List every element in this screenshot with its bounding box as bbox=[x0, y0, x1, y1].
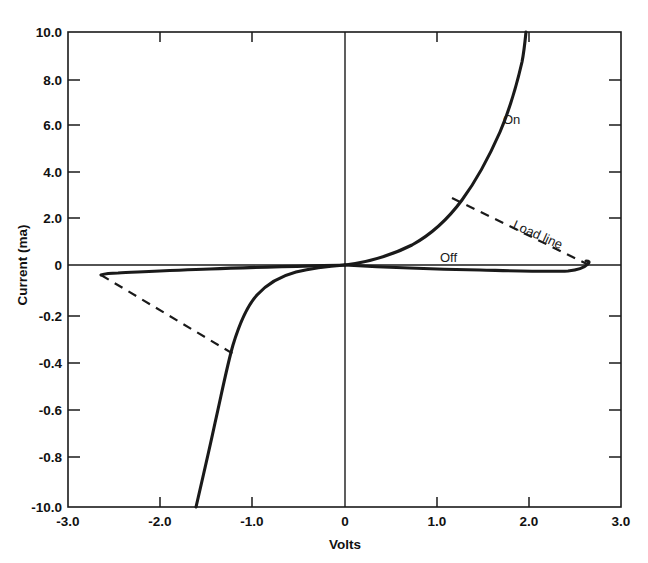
curve-on bbox=[345, 32, 526, 265]
y-tick-label: -0.8 bbox=[39, 450, 63, 465]
x-axis-title: Volts bbox=[329, 537, 361, 552]
y-tick-label: 8.0 bbox=[43, 73, 62, 88]
y-tick-label: -10.0 bbox=[31, 500, 62, 515]
load-line-reverse bbox=[101, 275, 235, 355]
annotation-load-line: Load line bbox=[511, 217, 565, 252]
y-tick-label: -0.2 bbox=[39, 309, 62, 324]
y-tick-label: 10.0 bbox=[36, 25, 62, 40]
x-tick-label: -1.0 bbox=[240, 514, 263, 529]
x-tick-label: 2.0 bbox=[520, 514, 539, 529]
y-tick-label: -0.4 bbox=[39, 356, 63, 371]
x-tick-label: 3.0 bbox=[612, 514, 631, 529]
y-tick-labels: 10.0 8.0 6.0 4.0 2.0 0 -0.2 -0.4 -0.6 -0… bbox=[31, 25, 62, 515]
annotation-off: Off bbox=[440, 250, 457, 265]
y-tick-label: 6.0 bbox=[43, 118, 62, 133]
x-tick-label: 1.0 bbox=[428, 514, 447, 529]
curve-off bbox=[345, 261, 589, 271]
zero-axes bbox=[68, 32, 621, 507]
x-tick-label: -3.0 bbox=[56, 514, 79, 529]
y-axis-title: Current (ma) bbox=[15, 224, 30, 305]
curve-on-reverse bbox=[196, 265, 345, 507]
x-tick-label: -2.0 bbox=[148, 514, 171, 529]
y-tick-label: 0 bbox=[54, 258, 62, 273]
x-tick-label: 0 bbox=[341, 514, 349, 529]
y-tick-label: -0.6 bbox=[39, 403, 63, 418]
y-tick-label: 4.0 bbox=[43, 165, 62, 180]
x-tick-labels: -3.0 -2.0 -1.0 0 1.0 2.0 3.0 bbox=[56, 514, 630, 529]
iv-characteristic-chart: 10.0 8.0 6.0 4.0 2.0 0 -0.2 -0.4 -0.6 -0… bbox=[0, 0, 648, 563]
annotation-on: On bbox=[503, 112, 520, 127]
y-tick-label: 2.0 bbox=[43, 211, 62, 226]
